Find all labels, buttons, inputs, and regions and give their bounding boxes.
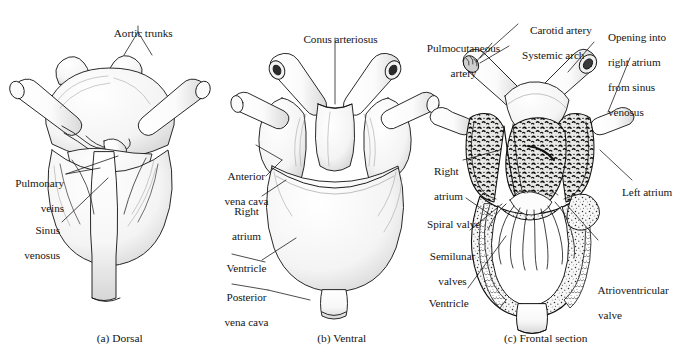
label-opening-sinus-line2: right atrium — [608, 56, 661, 68]
label-conus-arteriosus: Conus arteriosus — [276, 20, 394, 58]
label-opening-sinus-line3: from sinus — [608, 81, 655, 93]
label-left-atrium-text: Left atrium — [622, 186, 672, 198]
label-semilunar-valves-line1: Semilunar — [430, 250, 476, 262]
label-pulmonary-veins-line1: Pulmonary — [15, 177, 64, 189]
caption-panel-a: (a) Dorsal — [68, 320, 160, 349]
label-right-atrium-ventral: Right atrium — [208, 192, 274, 255]
label-pulmocutaneous-artery-line2: artery — [451, 67, 477, 79]
label-posterior-vena-cava: Posterior vena cava — [205, 278, 277, 341]
label-pulmocutaneous-artery-line1: Pulmocutaneous — [427, 42, 500, 54]
label-right-atrium-ventral-line1: Right — [234, 205, 259, 217]
label-ventricle-ventral-text: Ventricle — [226, 262, 266, 274]
label-opening-sinus-line1: Opening into — [608, 31, 666, 43]
label-aortic-trunks: Aortic trunks — [94, 14, 182, 52]
label-posterior-vena-cava-line2: vena cava — [225, 316, 269, 328]
label-ventricle-frontal-text: Ventricle — [429, 297, 469, 309]
caption-panel-c: (c) Frontal section — [470, 320, 610, 349]
label-sinus-venosus: Sinus venosus — [0, 211, 60, 274]
label-atrioventricular-valve-line2: valve — [598, 309, 622, 321]
label-systemic-arch-text: Systemic arch — [522, 49, 584, 61]
label-conus-arteriosus-text: Conus arteriosus — [303, 33, 377, 45]
label-posterior-vena-cava-line1: Posterior — [227, 291, 267, 303]
label-atrioventricular-valve-line1: Atrioventricular — [597, 284, 668, 296]
caption-panel-a-text: (a) Dorsal — [97, 332, 143, 344]
label-left-atrium: Left atrium — [611, 173, 671, 211]
label-spiral-valve-text: Spiral valve — [427, 218, 480, 230]
caption-panel-c-text: (c) Frontal section — [504, 332, 588, 344]
label-carotid-artery-text: Carotid artery — [530, 24, 592, 36]
label-anterior-vena-cava-line1: Anterior — [227, 170, 265, 182]
label-pulmocutaneous-artery: Pulmocutaneous artery — [410, 29, 506, 92]
label-opening-sinus-line4: venosus — [608, 106, 644, 118]
label-ventricle-frontal: Ventricle — [418, 284, 484, 322]
caption-panel-b-text: (b) Ventral — [317, 332, 366, 344]
caption-panel-b: (b) Ventral — [289, 320, 383, 349]
label-aortic-trunks-text: Aortic trunks — [114, 27, 173, 39]
label-right-atrium-frontal-line2: atrium — [434, 190, 463, 202]
label-opening-into-right-atrium: Opening into right atrium from sinus ven… — [597, 18, 671, 131]
label-right-atrium-frontal-line1: Right — [434, 165, 459, 177]
label-sinus-venosus-line1: Sinus — [35, 224, 60, 236]
label-sinus-venosus-line2: venosus — [24, 249, 60, 261]
label-systemic-arch: Systemic arch — [511, 36, 607, 74]
label-right-atrium-ventral-line2: atrium — [232, 230, 261, 242]
